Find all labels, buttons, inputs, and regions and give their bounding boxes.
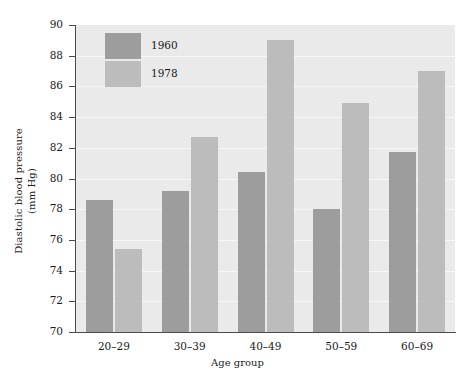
bar-1978-30–39 bbox=[191, 137, 218, 332]
x-axis-line bbox=[75, 332, 456, 333]
y-axis-tick-label: 72 bbox=[23, 294, 63, 306]
bar-1978-60–69 bbox=[418, 71, 445, 332]
bar-1960-60–69 bbox=[389, 152, 416, 332]
y-axis-tick-label: 78 bbox=[23, 202, 63, 214]
y-axis-tick-label: 84 bbox=[23, 110, 63, 122]
x-axis-tick-label: 30–39 bbox=[150, 340, 230, 352]
x-axis-tick-label: 50–59 bbox=[301, 340, 381, 352]
y-axis-tick-label: 88 bbox=[23, 49, 63, 61]
bar-1960-20–29 bbox=[86, 200, 113, 332]
y-axis-tick-label: 70 bbox=[23, 325, 63, 337]
bar-1978-40–49 bbox=[267, 40, 294, 332]
legend-label-1978: 1978 bbox=[151, 67, 178, 79]
gridline bbox=[76, 148, 455, 149]
bar-chart-figure: Diastolic blood pressure (mm Hg) 7072747… bbox=[0, 0, 475, 379]
legend-swatch-1978 bbox=[105, 61, 141, 87]
x-axis-tick-label: 60–69 bbox=[377, 340, 457, 352]
bar-1978-20–29 bbox=[115, 249, 142, 332]
y-axis-tick-label: 86 bbox=[23, 79, 63, 91]
gridline bbox=[76, 117, 455, 118]
x-axis-tick-label: 20–29 bbox=[74, 340, 154, 352]
legend-label-1960: 1960 bbox=[151, 39, 178, 51]
y-axis-tick-label: 90 bbox=[23, 18, 63, 30]
legend-swatch-1960 bbox=[105, 33, 141, 59]
y-axis-tick-label: 74 bbox=[23, 264, 63, 276]
bar-1960-40–49 bbox=[238, 172, 265, 332]
bar-1960-30–39 bbox=[162, 191, 189, 332]
y-axis-tick-label: 76 bbox=[23, 233, 63, 245]
y-axis-tick-label: 80 bbox=[23, 172, 63, 184]
bar-1960-50–59 bbox=[313, 209, 340, 332]
x-axis-tick-label: 40–49 bbox=[226, 340, 306, 352]
y-axis-tick-label: 82 bbox=[23, 141, 63, 153]
x-axis-title: Age group bbox=[0, 357, 475, 368]
bar-1978-50–59 bbox=[342, 103, 369, 332]
plot-area: 19601978 bbox=[76, 25, 455, 332]
